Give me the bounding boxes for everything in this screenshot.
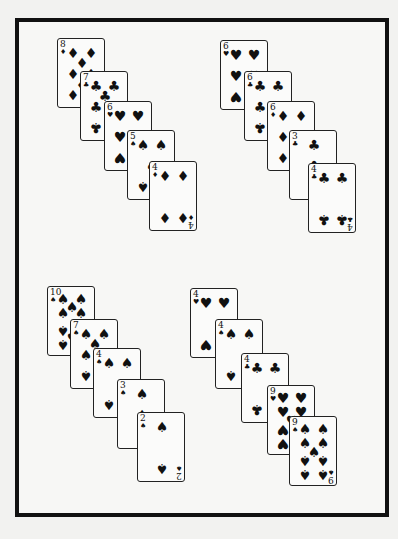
spades-pip-icon: ♠	[80, 348, 93, 362]
card-4-of-diamonds[interactable]: 4♦♦♦♦♦4♦	[149, 161, 197, 231]
card-rank-corner: 4	[347, 222, 353, 231]
diamonds-pip-icon: ♦	[277, 130, 290, 144]
clubs-icon: ♣	[244, 364, 250, 371]
spades-pip-icon: ♠	[57, 338, 70, 352]
clubs-icon: ♣	[311, 174, 317, 181]
clubs-pip-icon: ♣	[251, 361, 264, 375]
hearts-icon: ♥	[223, 51, 229, 58]
hearts-pip-icon: ♥	[230, 48, 243, 62]
diamonds-pip-icon: ♦	[159, 169, 172, 183]
spades-icon: ♠	[328, 468, 334, 475]
hearts-pip-icon: ♥	[132, 109, 145, 123]
diamonds-pip-icon: ♦	[67, 88, 80, 102]
spades-pip-icon: ♠	[80, 369, 93, 383]
hearts-pip-icon: ♥	[114, 151, 127, 165]
clubs-icon: ♣	[83, 82, 89, 89]
diamonds-pip-icon: ♦	[295, 109, 308, 123]
card-rank-corner: 4	[188, 220, 194, 229]
clubs-pip-icon: ♣	[90, 100, 103, 114]
hearts-icon: ♥	[270, 396, 276, 403]
hearts-pip-icon: ♥	[114, 109, 127, 123]
hearts-pip-icon: ♥	[230, 69, 243, 83]
clubs-pip-icon: ♣	[269, 361, 282, 375]
diamonds-icon: ♦	[188, 213, 194, 220]
spades-pip-icon: ♠	[156, 420, 169, 434]
spades-pip-icon: ♠	[156, 462, 169, 476]
hearts-pip-icon: ♥	[218, 296, 231, 310]
spades-pip-icon: ♠	[75, 306, 88, 320]
spades-pip-icon: ♠	[103, 398, 116, 412]
spades-icon: ♠	[50, 297, 56, 304]
hearts-pip-icon: ♥	[295, 391, 308, 405]
spades-icon: ♠	[292, 427, 298, 434]
diamonds-pip-icon: ♦	[159, 211, 172, 225]
hearts-pip-icon: ♥	[277, 423, 290, 437]
clubs-pip-icon: ♣	[308, 138, 321, 152]
diamonds-pip-icon: ♦	[177, 169, 190, 183]
spades-icon: ♠	[120, 390, 126, 397]
hearts-icon: ♥	[193, 299, 199, 306]
spades-pip-icon: ♠	[137, 138, 150, 152]
spades-pip-icon: ♠	[317, 454, 330, 468]
clubs-pip-icon: ♣	[336, 171, 349, 185]
spades-pip-icon: ♠	[155, 138, 168, 152]
clubs-pip-icon: ♣	[254, 121, 267, 135]
spades-icon: ♠	[73, 330, 79, 337]
hearts-pip-icon: ♥	[114, 130, 127, 144]
spades-pip-icon: ♠	[137, 180, 150, 194]
spades-icon: ♠	[218, 330, 224, 337]
spades-pip-icon: ♠	[57, 306, 70, 320]
spades-pip-icon: ♠	[121, 356, 134, 370]
clubs-pip-icon: ♣	[318, 171, 331, 185]
spades-pip-icon: ♠	[103, 356, 116, 370]
card-9-of-spades[interactable]: 9♠♠♠♠♠♠♠♠♠♠9♠	[289, 416, 337, 486]
diamonds-pip-icon: ♦	[277, 109, 290, 123]
spades-icon: ♠	[96, 359, 102, 366]
card-4-of-clubs[interactable]: 4♣♣♣♣♣4♣	[308, 163, 356, 233]
hearts-pip-icon: ♥	[277, 437, 290, 451]
hearts-pip-icon: ♥	[277, 391, 290, 405]
spades-icon: ♠	[130, 141, 136, 148]
spades-pip-icon: ♠	[299, 454, 312, 468]
spades-pip-icon: ♠	[243, 327, 256, 341]
diamonds-icon: ♦	[60, 49, 66, 56]
hearts-icon: ♥	[107, 112, 113, 119]
clubs-icon: ♣	[292, 141, 298, 148]
card-2-of-spades[interactable]: 2♠♠♠2♠	[137, 412, 185, 482]
spades-pip-icon: ♠	[225, 327, 238, 341]
diamonds-pip-icon: ♦	[277, 151, 290, 165]
spades-pip-icon: ♠	[136, 387, 149, 401]
card-rank-corner: 2	[176, 471, 182, 480]
spades-icon: ♠	[176, 464, 182, 471]
card-rank-corner: 9	[328, 475, 334, 484]
spades-icon: ♠	[140, 423, 146, 430]
clubs-pip-icon: ♣	[254, 100, 267, 114]
spades-pip-icon: ♠	[299, 468, 312, 482]
diamonds-icon: ♦	[270, 112, 276, 119]
spades-pip-icon: ♠	[317, 422, 330, 436]
clubs-icon: ♣	[247, 82, 253, 89]
hearts-pip-icon: ♥	[248, 48, 261, 62]
clubs-pip-icon: ♣	[318, 213, 331, 227]
diamonds-icon: ♦	[152, 172, 158, 179]
clubs-pip-icon: ♣	[254, 79, 267, 93]
clubs-pip-icon: ♣	[251, 403, 264, 417]
spades-pip-icon: ♠	[299, 422, 312, 436]
clubs-icon: ♣	[347, 215, 353, 222]
clubs-pip-icon: ♣	[272, 79, 285, 93]
hearts-pip-icon: ♥	[200, 338, 213, 352]
spades-pip-icon: ♠	[225, 369, 238, 383]
clubs-pip-icon: ♣	[90, 121, 103, 135]
hearts-pip-icon: ♥	[230, 90, 243, 104]
hearts-pip-icon: ♥	[200, 296, 213, 310]
